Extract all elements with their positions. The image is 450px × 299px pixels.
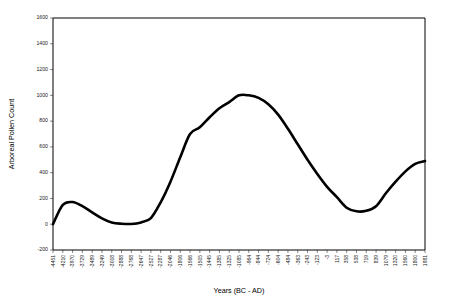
- x-tick-label: 538: [353, 255, 359, 264]
- x-tick-label: -2647: [138, 255, 144, 268]
- x-tick-label: 839: [373, 255, 379, 264]
- y-tick-label: 800: [39, 117, 48, 123]
- x-tick-label: -4451: [50, 255, 56, 268]
- x-tick-label: -2888: [118, 255, 124, 268]
- y-tick-label: 1000: [36, 92, 48, 98]
- x-tick-label: -1385: [216, 255, 222, 268]
- chart-canvas: -20002004006008001000120014001600 -4451-…: [0, 0, 450, 299]
- y-axis-title: Arboreal Pollen Count: [7, 99, 16, 169]
- x-tick-label: -3489: [89, 255, 95, 268]
- x-tick-label: -2287: [157, 255, 163, 268]
- chart-background: [0, 0, 450, 299]
- y-tick-label: 1200: [36, 66, 48, 72]
- y-tick-label: 1600: [36, 14, 48, 20]
- x-tick-label: -3970: [69, 255, 75, 268]
- y-tick-label: 600: [39, 143, 48, 149]
- x-tick-label: -3008: [109, 255, 115, 268]
- x-tick-label: -4210: [60, 255, 66, 268]
- x-tick-label: -484: [285, 255, 291, 265]
- x-tick-label: -123: [314, 255, 320, 265]
- x-tick-label: -1085: [236, 255, 242, 268]
- x-tick-label: 1320: [392, 255, 398, 266]
- x-tick-label: -1445: [206, 255, 212, 268]
- y-tick-label: 400: [39, 169, 48, 175]
- x-tick-label: -844: [255, 255, 261, 265]
- y-tick-label: 200: [39, 195, 48, 201]
- x-tick-label: 1560: [402, 255, 408, 266]
- x-tick-label: -3249: [99, 255, 105, 268]
- x-tick-label: -243: [304, 255, 310, 265]
- x-tick-label: -2046: [167, 255, 173, 268]
- x-tick-label: -1505: [197, 255, 203, 268]
- x-tick-label: -1806: [177, 255, 183, 268]
- x-tick-label: -2768: [128, 255, 134, 268]
- x-tick-label: -3729: [79, 255, 85, 268]
- y-tick-label: -200: [38, 246, 48, 252]
- x-tick-label: -1566: [187, 255, 193, 268]
- pollen-count-chart: -20002004006008001000120014001600 -4451-…: [0, 0, 450, 299]
- x-tick-label: -724: [265, 255, 271, 265]
- x-tick-label: 1981: [422, 255, 428, 266]
- x-tick-label: 358: [343, 255, 349, 264]
- x-tick-label: -1325: [226, 255, 232, 268]
- x-axis-title: Years (BC - AD): [214, 286, 265, 295]
- x-tick-label: -363: [295, 255, 301, 265]
- x-tick-label: -2527: [148, 255, 154, 268]
- x-tick-label: 719: [363, 255, 369, 264]
- x-tick-label: 117: [334, 255, 340, 263]
- y-tick-label: 1400: [36, 40, 48, 46]
- x-tick-label: -964: [246, 255, 252, 265]
- x-tick-label: -3: [324, 255, 330, 260]
- x-tick-label: 1079: [383, 255, 389, 266]
- x-tick-label: 1800: [412, 255, 418, 266]
- y-tick-label: 0: [45, 221, 48, 227]
- x-tick-label: -604: [275, 255, 281, 265]
